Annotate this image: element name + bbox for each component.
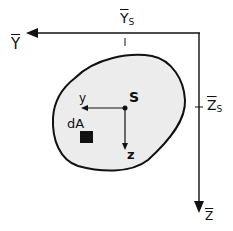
global-z-arrowhead-icon bbox=[194, 201, 204, 213]
area-element-label: dA bbox=[67, 117, 84, 130]
zs-label: ZS bbox=[207, 98, 222, 112]
cross-section-shape bbox=[53, 55, 185, 171]
centroid-label: S bbox=[129, 90, 139, 104]
area-element-square bbox=[80, 131, 93, 143]
global-z-label: Z bbox=[205, 210, 213, 222]
local-z-label: z bbox=[127, 148, 135, 161]
ys-label: YS bbox=[120, 11, 134, 25]
zs-label-sub: S bbox=[217, 104, 223, 114]
global-y-label: Y bbox=[11, 37, 20, 52]
diagram-canvas bbox=[0, 0, 233, 231]
zs-label-main: Z bbox=[207, 97, 217, 113]
local-y-label: y bbox=[79, 92, 86, 104]
ys-label-main: Y bbox=[120, 10, 129, 26]
ys-label-sub: S bbox=[129, 17, 135, 27]
global-y-arrowhead-icon bbox=[26, 28, 38, 38]
